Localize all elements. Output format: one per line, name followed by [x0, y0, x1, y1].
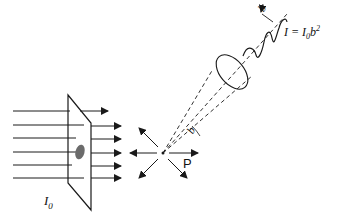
aperture-ellipse: [210, 49, 254, 95]
incident-intensity-label: I0: [44, 193, 53, 211]
scattered-wave: [243, 19, 287, 57]
incident-rays: [13, 111, 84, 178]
point-p-label: P: [183, 156, 192, 171]
detection-cone: [163, 14, 287, 153]
particle: [74, 144, 87, 161]
intensity-formula: I = I0b2: [284, 24, 320, 41]
transmitted-rays: [80, 111, 121, 178]
